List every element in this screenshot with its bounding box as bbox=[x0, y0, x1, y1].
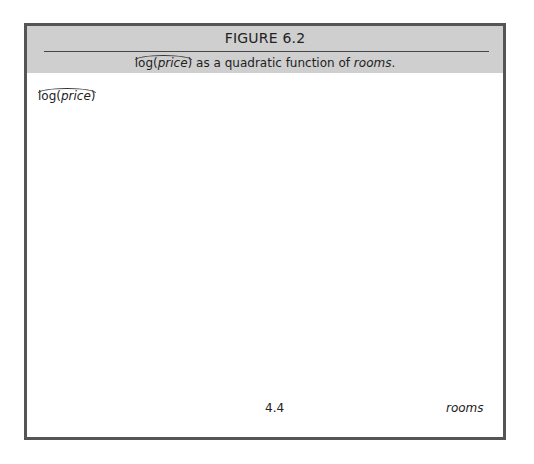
caption-log: log( bbox=[135, 56, 158, 70]
caption-period: . bbox=[391, 56, 395, 70]
figure-frame: FIGURE 6.2 log(price) as a quadratic fun… bbox=[24, 23, 506, 440]
y-axis-label: log(price) bbox=[38, 89, 96, 103]
ylabel-hat: log(price) bbox=[38, 89, 96, 103]
x-tick-label: 4.4 bbox=[265, 401, 284, 415]
caption-mid: as a quadratic function of bbox=[192, 56, 354, 70]
caption-paren: ) bbox=[188, 56, 193, 70]
figure-caption: log(price) as a quadratic function of ro… bbox=[27, 56, 503, 70]
ylabel-price: price bbox=[61, 89, 91, 103]
ylabel-log: log( bbox=[38, 89, 61, 103]
x-axis-label: rooms bbox=[446, 401, 484, 415]
ylabel-paren: ) bbox=[91, 89, 96, 103]
figure-number: FIGURE 6.2 bbox=[27, 30, 503, 46]
caption-rooms: rooms bbox=[354, 56, 392, 70]
caption-hat-term: log(price) bbox=[135, 56, 193, 70]
figure-header: FIGURE 6.2 log(price) as a quadratic fun… bbox=[27, 26, 503, 73]
caption-price: price bbox=[158, 56, 188, 70]
title-rule bbox=[44, 51, 489, 52]
